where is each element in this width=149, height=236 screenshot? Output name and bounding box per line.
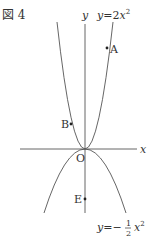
figure-title: 図 4: [2, 8, 26, 22]
point-e-label: E: [74, 193, 82, 206]
lower-parabola-label: y=− 1 2 x2: [96, 219, 145, 236]
svg-text:1: 1: [126, 219, 131, 228]
figure-diagram: 図 4 x y O y=2x2 y=− 1 2 x2 A B E: [0, 0, 149, 236]
svg-text:x2: x2: [134, 220, 145, 234]
y-axis-label: y: [81, 9, 89, 22]
point-b-marker: [70, 123, 73, 126]
upper-parabola-label: y=2x2: [96, 8, 130, 22]
svg-text:y=−: y=−: [96, 221, 122, 234]
point-e-marker: [84, 198, 87, 201]
point-a-label: A: [109, 43, 119, 56]
origin-label: O: [76, 152, 85, 165]
point-b-label: B: [61, 118, 69, 131]
x-axis-label: x: [140, 143, 147, 156]
svg-text:2: 2: [126, 229, 131, 236]
point-a-marker: [106, 47, 109, 50]
